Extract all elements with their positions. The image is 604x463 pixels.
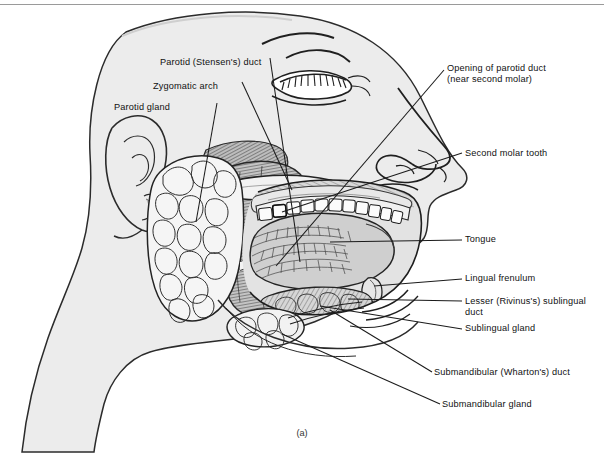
label-zygomatic-arch: Zygomatic arch — [153, 81, 218, 92]
label-lesser-rivinus-sublingual-duct: Lesser (Rivinus's) sublingual — [465, 296, 586, 307]
label-submandibular-whartons-duct: Submandibular (Wharton's) duct — [434, 367, 570, 378]
label-submandibular-gland: Submandibular gland — [442, 399, 532, 410]
anatomy-figure: Parotid (Stensen's) duct Zygomatic arch … — [0, 0, 604, 463]
label-lingual-frenulum: Lingual frenulum — [465, 273, 535, 284]
label-lesser-rivinus-sublingual-duct-sub: duct — [465, 307, 483, 318]
label-parotid-gland: Parotid gland — [114, 102, 170, 113]
label-second-molar-tooth: Second molar tooth — [465, 148, 547, 159]
label-sublingual-gland: Sublingual gland — [465, 323, 535, 334]
label-opening-of-parotid-duct: Opening of parotid duct — [447, 63, 546, 74]
label-tongue: Tongue — [465, 234, 496, 245]
label-parotid-stensens-duct: Parotid (Stensen's) duct — [160, 57, 261, 68]
label-opening-of-parotid-duct-sub: (near second molar) — [447, 74, 532, 85]
figure-caption: (a) — [0, 428, 604, 438]
